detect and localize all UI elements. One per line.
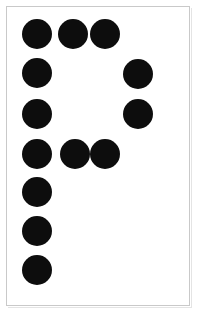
matrix-dot <box>22 177 52 207</box>
matrix-dot <box>22 19 52 49</box>
matrix-dot <box>22 255 52 285</box>
matrix-dot <box>90 19 120 49</box>
matrix-dot <box>60 139 90 169</box>
matrix-dot <box>58 19 88 49</box>
image-canvas <box>0 0 203 321</box>
matrix-dot <box>22 139 52 169</box>
dot-matrix-glyph-p <box>0 0 203 321</box>
matrix-dot <box>22 99 52 129</box>
matrix-dot <box>123 99 153 129</box>
matrix-dot <box>90 139 120 169</box>
matrix-dot <box>22 216 52 246</box>
matrix-dot <box>22 58 52 88</box>
matrix-dot <box>123 59 153 89</box>
